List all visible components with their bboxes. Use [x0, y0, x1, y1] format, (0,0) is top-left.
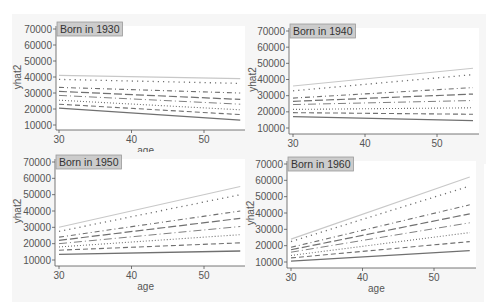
panel-label-box: Born in 1950	[56, 155, 122, 169]
y-axis-title: yhat2	[12, 64, 23, 89]
y-tick-label: 60000	[24, 40, 52, 51]
x-axis-title: age	[368, 283, 385, 294]
x-tick-label: 40	[359, 138, 371, 149]
y-tick-label: 50000	[24, 56, 52, 67]
y-tick-label: 50000	[257, 58, 285, 69]
panel-4: 1000020000300004000050000600007000030405…	[245, 152, 484, 302]
y-tick-label: 40000	[257, 74, 285, 85]
y-tick-label: 60000	[23, 173, 51, 184]
x-tick-label: 40	[126, 270, 138, 281]
y-tick-label: 10000	[23, 255, 51, 266]
x-tick-label: 50	[428, 272, 440, 283]
panel-label-box: Born in 1940	[290, 24, 356, 38]
y-axis-title: yhat2	[12, 198, 23, 223]
y-tick-label: 30000	[23, 222, 51, 233]
x-tick-label: 50	[198, 270, 210, 281]
y-tick-label: 70000	[257, 26, 285, 37]
x-tick-label: 40	[126, 134, 138, 145]
y-axis-title: yhat2	[247, 67, 258, 92]
x-tick-label: 30	[53, 270, 65, 281]
y-axis-title: yhat2	[245, 200, 256, 225]
panel-label-text: Born in 1930	[60, 23, 120, 35]
x-tick-label: 40	[357, 272, 369, 283]
y-tick-label: 30000	[255, 224, 283, 235]
panel-1: 1000020000300004000050000600007000030405…	[12, 14, 260, 164]
x-tick-label: 30	[285, 272, 297, 283]
x-tick-label: 50	[431, 138, 443, 149]
y-tick-label: 70000	[255, 159, 283, 170]
panel-label-box: Born in 1930	[57, 22, 123, 36]
y-tick-label: 60000	[257, 42, 285, 53]
chart-canvas: 1000020000300004000050000600007000030405…	[0, 0, 497, 307]
y-tick-label: 60000	[255, 175, 283, 186]
y-tick-label: 30000	[24, 88, 52, 99]
y-tick-label: 20000	[23, 238, 51, 249]
y-tick-label: 20000	[24, 104, 52, 115]
y-tick-label: 10000	[257, 123, 285, 134]
x-tick-label: 30	[287, 138, 299, 149]
y-tick-label: 70000	[23, 157, 51, 168]
y-tick-label: 30000	[257, 90, 285, 101]
y-tick-label: 20000	[255, 240, 283, 251]
panel-label-text: Born in 1940	[293, 25, 353, 37]
y-tick-label: 70000	[24, 24, 52, 35]
y-tick-label: 10000	[255, 257, 283, 268]
x-tick-label: 50	[198, 134, 210, 145]
y-tick-label: 40000	[23, 206, 51, 217]
y-tick-label: 40000	[255, 208, 283, 219]
panel-label-text: Born in 1950	[59, 156, 119, 168]
y-tick-label: 50000	[255, 191, 283, 202]
y-tick-label: 50000	[23, 189, 51, 200]
y-tick-label: 20000	[257, 106, 285, 117]
x-axis-title: age	[137, 281, 154, 292]
panel-label-box: Born in 1960	[288, 157, 354, 171]
panel-2: 1000020000300004000050000600007000030405…	[247, 14, 486, 164]
panel-label-text: Born in 1960	[291, 158, 351, 170]
y-tick-label: 40000	[24, 72, 52, 83]
x-tick-label: 30	[53, 134, 65, 145]
y-tick-label: 10000	[24, 120, 52, 131]
panel-3: 1000020000300004000050000600007000030405…	[12, 152, 260, 302]
